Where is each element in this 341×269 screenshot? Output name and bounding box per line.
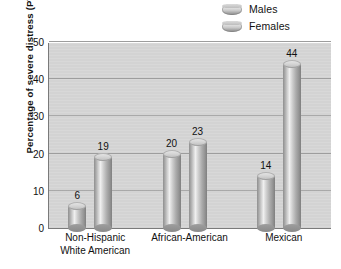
- bar-males-2: 20: [163, 154, 181, 228]
- x-axis-label-3: Mexican: [237, 232, 331, 245]
- x-axis-label-2: African-American: [142, 232, 236, 245]
- bar-top-ellipse: [257, 172, 275, 180]
- legend-label-males: Males: [249, 4, 278, 15]
- plot-area: 61920231444: [48, 43, 331, 229]
- x-axis-label-1: Non-HispanicWhite American: [48, 232, 142, 257]
- legend-label-females: Females: [249, 21, 290, 32]
- x-axis-label-line: White American: [48, 245, 142, 258]
- x-axis-category-labels: Non-HispanicWhite AmericanAfrican-Americ…: [48, 232, 330, 268]
- bar-value-label: 44: [286, 49, 297, 59]
- x-axis-label-line: African-American: [142, 232, 236, 245]
- bar-base-ellipse: [283, 224, 301, 232]
- bar-top-ellipse: [189, 138, 207, 146]
- bar-base-ellipse: [94, 224, 112, 232]
- y-axis-tick-40: 40: [22, 75, 44, 85]
- bar-top-ellipse: [163, 150, 181, 158]
- bar-value-label: 14: [260, 161, 271, 171]
- y-axis-tick-30: 30: [22, 112, 44, 122]
- bar-females-3: 44: [283, 64, 301, 228]
- y-axis-tick-10: 10: [22, 187, 44, 197]
- bar-top-ellipse: [283, 60, 301, 68]
- bar-males-3: 14: [257, 176, 275, 228]
- x-axis-label-line: Non-Hispanic: [48, 232, 142, 245]
- legend-swatch-females-icon: [222, 21, 242, 32]
- x-axis-label-line: Mexican: [237, 232, 331, 245]
- bar-value-label: 20: [166, 139, 177, 149]
- bar-value-label: 23: [192, 127, 203, 137]
- bar-males-1: 6: [68, 206, 86, 228]
- bar-top-ellipse: [68, 202, 86, 210]
- bar-value-label: 6: [74, 191, 80, 201]
- legend-item-males: Males: [222, 2, 337, 17]
- gridline: [49, 41, 331, 42]
- bar-base-ellipse: [163, 224, 181, 232]
- bar-value-label: 19: [98, 142, 109, 152]
- legend-item-females: Females: [222, 19, 337, 34]
- y-axis-tick-0: 0: [22, 224, 44, 234]
- bar-base-ellipse: [68, 224, 86, 232]
- chart-legend: Males Females: [222, 2, 337, 36]
- bar-top-ellipse: [94, 153, 112, 161]
- bar-females-1: 19: [94, 157, 112, 228]
- bar-females-2: 23: [189, 142, 207, 228]
- legend-swatch-males-icon: [222, 4, 242, 15]
- y-axis-tick-50: 50: [22, 38, 44, 48]
- y-axis-tick-20: 20: [22, 150, 44, 160]
- y-axis-tick-labels: 01020304050: [22, 38, 44, 230]
- bar-base-ellipse: [189, 224, 207, 232]
- bar-base-ellipse: [257, 224, 275, 232]
